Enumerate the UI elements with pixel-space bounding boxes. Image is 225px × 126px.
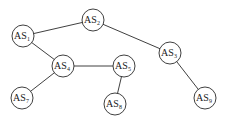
as-network-diagram: AS1AS2AS3AS4AS5AS7AS8AS9	[0, 0, 225, 126]
node-as9: AS9	[194, 87, 216, 109]
node-as8: AS8	[104, 93, 126, 115]
node-as7: AS7	[11, 87, 33, 109]
node-as4: AS4	[52, 55, 74, 77]
node-as1: AS1	[12, 25, 34, 47]
node-as5: AS5	[113, 55, 135, 77]
node-as2: AS2	[82, 9, 104, 31]
nodes-layer: AS1AS2AS3AS4AS5AS7AS8AS9	[11, 9, 216, 115]
edge-as2-as3	[93, 20, 170, 53]
node-as3: AS3	[159, 42, 181, 64]
